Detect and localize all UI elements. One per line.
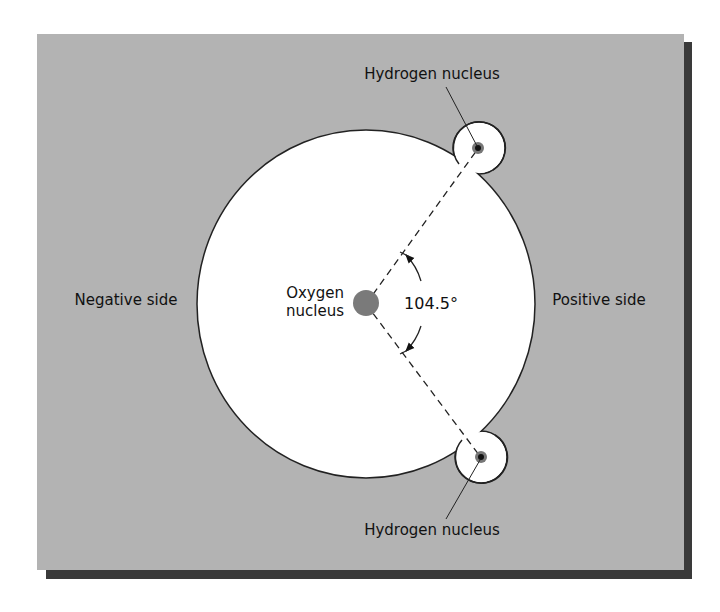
label-oxygen-line2: nucleus: [286, 302, 344, 320]
label-bond-angle: 104.5°: [404, 294, 458, 313]
label-negative-side: Negative side: [75, 291, 178, 309]
hydrogen-nucleus-bottom: [478, 454, 484, 460]
label-oxygen-line1: Oxygen: [286, 284, 344, 302]
label-hydrogen-bottom: Hydrogen nucleus: [364, 521, 500, 539]
label-positive-side: Positive side: [552, 291, 645, 309]
oxygen-nucleus: [353, 290, 379, 316]
label-hydrogen-top: Hydrogen nucleus: [364, 65, 500, 83]
water-molecule-diagram: Hydrogen nucleus Hydrogen nucleus Oxygen…: [0, 0, 720, 612]
hydrogen-nucleus-top: [475, 145, 481, 151]
